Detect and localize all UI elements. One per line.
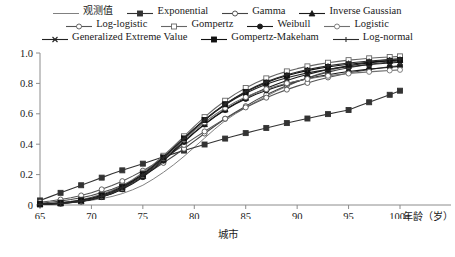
legend-marker-icon <box>127 5 153 16</box>
legend-marker-icon <box>42 31 68 42</box>
x-axis-tick-label: 70 <box>86 211 97 219</box>
data-point-marker <box>326 73 331 78</box>
legend-item-log-logistic[interactable]: Log-logistic <box>66 18 147 29</box>
x-axis-tick-label: 90 <box>292 211 303 219</box>
legend-marker-icon <box>299 5 325 16</box>
data-point-marker <box>172 24 177 29</box>
y-axis-tick-label: 0.6 <box>20 108 33 119</box>
data-point-marker <box>264 125 269 130</box>
legend-label: Gompertz <box>191 18 233 29</box>
x-axis-tick-label: 75 <box>138 211 149 219</box>
legend-label: Exponential <box>157 5 208 16</box>
series-line <box>40 60 400 205</box>
data-point-marker <box>243 131 248 136</box>
series-line <box>40 56 400 204</box>
y-axis-tick-label: 0.8 <box>20 78 33 89</box>
legend-marker-icon <box>66 18 92 29</box>
series-line <box>40 66 400 204</box>
legend-marker-icon <box>333 31 359 42</box>
legend-item-gompertz-makeham[interactable]: Gompertz-Makeham <box>201 31 318 42</box>
legend-marker-icon <box>324 18 350 29</box>
series-line <box>40 65 400 202</box>
legend-label: Logistic <box>354 18 388 29</box>
x-axis-tick-label: 80 <box>189 211 200 219</box>
data-point-marker <box>367 69 372 74</box>
data-point-marker <box>223 136 228 141</box>
legend-item-gamma[interactable]: Gamma <box>222 5 285 16</box>
legend-label: Weibull <box>277 18 310 29</box>
legend-item-weibull[interactable]: Weibull <box>247 18 310 29</box>
legend-item-gompertz[interactable]: Gompertz <box>161 18 233 29</box>
y-axis-tick-label: 0 <box>28 200 33 211</box>
data-point-marker <box>367 100 372 105</box>
plot-area: 00.20.40.60.81.065707580859095100+ <box>0 44 455 219</box>
legend-label: Inverse Gaussian <box>329 5 401 16</box>
series-weibull <box>38 64 403 207</box>
series-line <box>40 60 400 204</box>
series-gompertz-makeham <box>38 57 403 206</box>
y-axis-tick-label: 0.2 <box>20 169 33 180</box>
x-axis-tick-label: 85 <box>240 211 251 219</box>
x-axis-tick-label: 65 <box>35 211 46 219</box>
data-point-marker <box>77 24 82 29</box>
data-point-marker <box>346 71 351 76</box>
legend-item-inverse-gaussian[interactable]: Inverse Gaussian <box>299 5 401 16</box>
y-axis-tick-label: 0.4 <box>20 139 34 150</box>
legend-item-exponential[interactable]: Exponential <box>127 5 208 16</box>
legend-label: Log-logistic <box>96 18 147 29</box>
data-point-marker <box>243 105 248 110</box>
data-point-marker <box>398 67 403 72</box>
data-point-marker <box>346 108 351 113</box>
legend-item-generalized-extreme-value[interactable]: Generalized Extreme Value <box>42 31 187 42</box>
series-- <box>40 58 400 204</box>
series-gamma <box>38 58 403 205</box>
series-line <box>40 62 400 204</box>
data-point-marker <box>284 87 289 92</box>
legend-marker-icon <box>201 31 227 42</box>
data-point-marker <box>99 187 104 192</box>
data-point-marker <box>202 142 207 147</box>
chart-figure: 观测值ExponentialGammaInverse GaussianLog-l… <box>0 0 455 257</box>
series-logistic <box>38 67 403 207</box>
data-point-marker <box>223 116 228 121</box>
data-point-marker <box>343 37 348 42</box>
legend-marker-icon <box>161 18 187 29</box>
series-line <box>40 70 400 205</box>
data-point-marker <box>326 112 331 117</box>
data-point-marker <box>99 175 104 180</box>
series-log-logistic <box>38 63 403 205</box>
legend-label: Log-normal <box>363 31 413 42</box>
data-point-marker <box>58 190 63 195</box>
series-line <box>40 61 400 203</box>
legend-label: Generalized Extreme Value <box>72 31 187 42</box>
data-point-marker <box>387 68 392 73</box>
legend-label: Gamma <box>252 5 285 16</box>
series-log-normal <box>38 56 403 206</box>
data-point-marker <box>120 168 125 173</box>
data-point-marker <box>284 81 289 86</box>
series-line <box>40 59 400 204</box>
x-axis-tick-label: 95 <box>343 211 354 219</box>
data-point-marker <box>258 24 263 29</box>
data-point-marker <box>233 11 238 16</box>
data-point-marker <box>387 92 392 97</box>
data-point-marker <box>335 24 340 29</box>
data-point-marker <box>305 116 310 121</box>
y-axis-tick-label: 1.0 <box>20 48 33 59</box>
data-point-marker <box>79 183 84 188</box>
chart-legend: 观测值ExponentialGammaInverse GaussianLog-l… <box>0 4 455 46</box>
legend-item-logistic[interactable]: Logistic <box>324 18 388 29</box>
legend-marker-icon <box>222 5 248 16</box>
data-point-marker <box>398 88 403 93</box>
legend-marker-icon <box>53 5 79 16</box>
legend-item--[interactable]: 观测值 <box>53 5 113 16</box>
x-axis-title-right: 年龄（岁） <box>403 208 453 223</box>
legend-item-log-normal[interactable]: Log-normal <box>333 31 413 42</box>
data-point-marker <box>284 121 289 126</box>
series-line <box>40 58 400 204</box>
series-generalized-extreme-value <box>38 60 403 207</box>
legend-marker-icon <box>247 18 273 29</box>
series-inverse-gaussian <box>37 57 403 207</box>
x-axis-title-center: 城市 <box>0 226 455 241</box>
series-exponential <box>38 88 403 203</box>
